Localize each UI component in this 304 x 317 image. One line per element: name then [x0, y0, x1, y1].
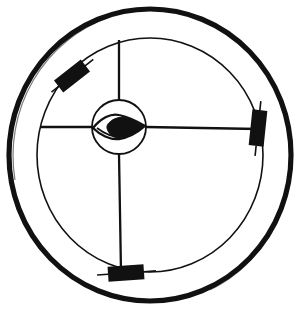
- block-body: [108, 264, 145, 281]
- block-lead-a: [260, 101, 261, 111]
- diagram-background: [0, 0, 304, 317]
- block-lead-b: [144, 271, 156, 272]
- block-lead-a: [97, 274, 108, 275]
- block-lead-b: [255, 146, 256, 156]
- figure-root: [0, 0, 304, 317]
- wheel-diagram: [0, 0, 304, 317]
